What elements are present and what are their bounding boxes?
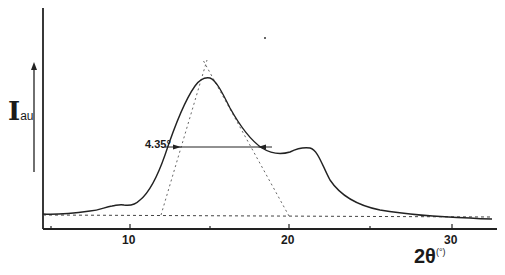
tick-label-30: 30 bbox=[444, 233, 457, 247]
tick-label-20: 20 bbox=[281, 233, 294, 247]
x-axis-label-unit: (°) bbox=[436, 247, 446, 257]
y-axis-label-sub: au bbox=[20, 109, 33, 123]
fwhm-label: 4.35° bbox=[145, 138, 171, 150]
speck bbox=[264, 37, 266, 39]
y-axis-label-main: I bbox=[8, 96, 20, 126]
x-axis-label-main: 2θ bbox=[414, 245, 436, 267]
xrd-chart bbox=[0, 0, 505, 275]
tick-label-10: 10 bbox=[122, 233, 135, 247]
y-axis-label: Iau bbox=[8, 96, 34, 126]
xrd-curve bbox=[43, 78, 492, 219]
fwhm-arrow-left bbox=[173, 145, 181, 150]
x-axis-label: 2θ(°) bbox=[414, 245, 446, 268]
y-arrow-head bbox=[31, 62, 37, 70]
